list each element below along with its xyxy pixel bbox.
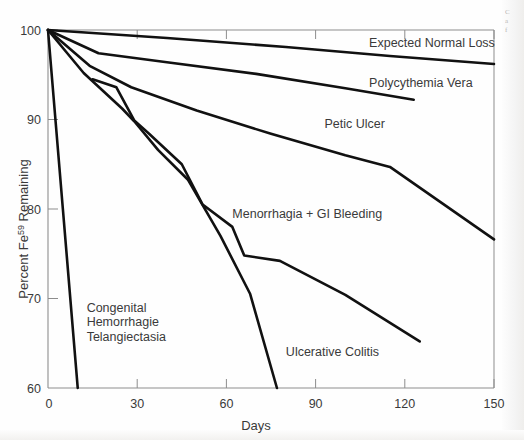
x-axis-title: Days — [241, 418, 271, 433]
x-tick-label: 120 — [394, 397, 415, 411]
axis-titles: DaysPercent Fe59 Remaining — [16, 159, 272, 433]
x-tick-label: 30 — [130, 397, 144, 411]
series-label: Ulcerative Colitis — [286, 345, 379, 359]
series-label: Polycythemia Vera — [369, 76, 473, 90]
series-label: Menorrhagia + GI Bleeding — [232, 207, 382, 221]
series-label: Petic Ulcer — [325, 117, 385, 131]
line-chart: 60708090100 0306090120150 Expected Norma… — [0, 0, 524, 440]
series-label-line: Hemorrhagie — [87, 315, 159, 329]
figure-page: Caf 60708090100 0306090120150 Expected N… — [0, 0, 524, 440]
series-label: Expected Normal Loss — [369, 36, 495, 50]
x-axis-tick-labels: 0306090120150 — [46, 397, 505, 411]
x-tick-label: 60 — [219, 397, 233, 411]
x-tick-label: 0 — [46, 397, 53, 411]
series-label-line: Telangiectasia — [87, 330, 166, 344]
y-tick-label: 100 — [20, 24, 41, 38]
y-axis-title: Percent Fe59 Remaining — [16, 159, 32, 298]
y-tick-label: 90 — [27, 113, 41, 127]
x-tick-label: 150 — [484, 397, 505, 411]
x-tick-label: 90 — [309, 397, 323, 411]
series-label-line: Congenital — [87, 301, 147, 315]
y-tick-label: 60 — [27, 382, 41, 396]
